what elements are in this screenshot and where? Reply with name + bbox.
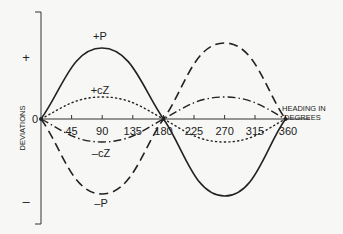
tick-270: 270: [215, 125, 233, 137]
y-plus-mark: +: [22, 50, 30, 65]
y-zero-label: 0: [32, 113, 38, 125]
tick-180: 180: [154, 125, 172, 137]
x-axis-title-line2: DEGREES: [284, 113, 321, 122]
tick-90: 90: [96, 125, 108, 137]
label-minus-cz: –cZ: [92, 147, 111, 159]
label-plus-p: +P: [93, 30, 107, 42]
midpoint-180: [162, 117, 166, 121]
tick-225: 225: [185, 125, 203, 137]
x-tick-labels: 45 90 135 180 225 270 315 360: [65, 125, 297, 137]
y-minus-mark: –: [22, 194, 30, 209]
x-axis-ticks: [72, 115, 286, 119]
label-minus-p: –P: [94, 197, 107, 209]
x-axis-title-line1: HEADING IN: [282, 104, 326, 113]
tick-45: 45: [65, 125, 77, 137]
y-axis-title: DEVIATIONS: [18, 106, 27, 151]
tick-135: 135: [124, 125, 142, 137]
deviation-curve-diagram: 45 90 135 180 225 270 315 360 +P –P +cZ …: [0, 0, 343, 234]
origin-point: [39, 117, 43, 121]
tick-315: 315: [246, 125, 264, 137]
plus-p-curve: [41, 48, 286, 196]
tick-360: 360: [279, 125, 297, 137]
label-plus-cz: +cZ: [91, 84, 110, 96]
